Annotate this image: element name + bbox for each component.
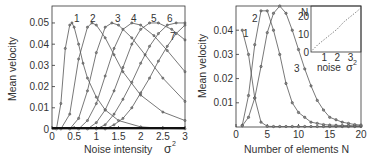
data-point [285,12,287,14]
data-point [82,62,84,64]
data-point [254,44,256,46]
data-point [184,119,186,121]
data-point [279,125,281,127]
data-point [131,107,133,109]
data-point [60,102,62,104]
data-point [316,122,318,124]
inset-series-line [312,8,361,50]
y-tick-label: 0.04 [30,39,50,50]
right-plot-number-of-elements: 051015200.010.020.030.04123 [214,5,367,140]
data-point [117,24,119,26]
x-tick-label: 20 [355,129,367,140]
data-point [86,77,88,79]
inset-y-tick-label: 0 [303,47,309,58]
left-plot-noise-intensity: 00.511.522.5300.010.020.030.040.05123456… [30,6,189,142]
left-x-axis-symbol: σ [164,142,172,156]
data-point [247,116,249,118]
x-tick-label: 5 [264,129,270,140]
data-point [95,122,97,124]
y-tick-label: 0.04 [214,25,234,36]
data-point [73,26,75,28]
data-point [113,90,115,92]
right-x-axis-label: Number of elements N [244,143,349,155]
x-tick-label: 3 [182,131,188,142]
data-point [104,124,106,126]
data-point [260,10,262,12]
data-point [78,117,80,119]
data-point [279,5,281,7]
figure: 00.511.522.5300.010.020.030.040.05123456… [0,0,376,165]
inset-y-axis-label: N [301,7,308,18]
data-point [260,121,262,123]
data-point [347,122,349,124]
x-tick-label: 0 [233,129,239,140]
data-point [166,45,168,47]
data-point [266,125,268,127]
left-x-axis-symbol-superscript: 2 [172,140,176,147]
data-point [184,22,186,24]
data-point [113,124,115,126]
data-point [71,22,73,24]
x-tick-label: 1.5 [112,131,126,142]
data-point [322,123,324,125]
data-point [254,97,256,99]
x-tick-label: 1 [94,131,100,142]
data-point [360,124,362,126]
data-point [104,75,106,77]
data-point [148,77,150,79]
curve-label-1: 1 [243,28,249,39]
left-y-axis-label: Mean velocity [6,36,18,101]
inset-frame [311,6,361,52]
data-point [304,116,306,118]
data-point [310,125,312,127]
curve-label-6: 6 [167,13,173,24]
data-point [297,111,299,113]
data-point [122,66,124,68]
x-tick-label: 0 [49,131,55,142]
data-point [266,10,268,12]
inset-x-axis-label: noise [317,62,341,73]
data-point [78,43,80,45]
data-point [279,53,281,55]
data-point [131,37,133,39]
data-point [69,113,71,115]
data-point [316,99,318,101]
data-point [247,53,249,55]
data-point [122,28,124,30]
data-point [95,96,97,98]
y-tick-label: 0 [43,124,49,135]
curve-label-2: 2 [90,13,96,24]
data-point [285,125,287,127]
data-point [140,62,142,64]
data-point [304,68,306,70]
data-point [162,77,164,79]
data-point [157,60,159,62]
y-tick-label: 0.05 [30,17,50,28]
data-point [162,111,164,113]
data-point [322,109,324,111]
y-tick-label: 0.02 [30,81,50,92]
curve-label-2: 2 [252,13,258,24]
x-tick-label: 0.5 [67,131,81,142]
data-point [285,82,287,84]
data-point [166,24,168,26]
data-point [122,98,124,100]
data-point [241,125,243,127]
data-point [310,121,312,123]
curve-label-5: 5 [151,13,157,24]
data-point [272,125,274,127]
data-point [104,109,106,111]
series-line-2 [61,23,185,129]
data-point [297,48,299,50]
data-point [104,26,106,28]
data-point [184,100,186,102]
data-point [247,94,249,96]
data-point [104,37,106,39]
data-point [354,123,356,125]
data-point [291,29,293,31]
data-point [131,43,133,45]
data-point [86,90,88,92]
data-point [272,29,274,31]
data-point [291,125,293,127]
data-point [95,24,97,26]
